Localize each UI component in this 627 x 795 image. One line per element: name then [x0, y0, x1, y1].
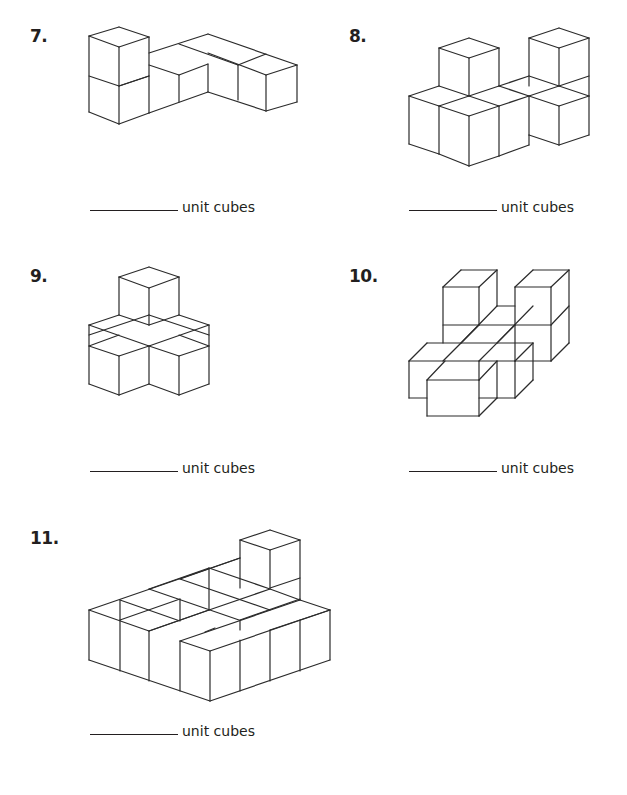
cube-edge	[179, 346, 209, 356]
cube-edge	[409, 144, 439, 154]
cube-edge	[469, 86, 499, 96]
cube-edge	[270, 578, 300, 588]
cube-edge	[551, 306, 569, 325]
cube-edge	[89, 27, 119, 36]
cube-edge	[439, 106, 469, 116]
cube-edge	[119, 346, 149, 356]
cube-edge	[149, 315, 209, 335]
cube-edge	[149, 34, 208, 53]
cube-edge	[559, 38, 589, 48]
cube-edge	[119, 27, 149, 37]
cube-edge	[89, 346, 119, 356]
cube-edge	[266, 65, 297, 75]
cube-figure-11	[89, 530, 330, 701]
cube-edge	[499, 96, 529, 106]
cube-edge	[119, 267, 149, 277]
cube-edge	[443, 270, 461, 287]
cube-edge	[469, 156, 499, 166]
cube-edge	[238, 54, 266, 65]
cube-edge	[469, 106, 499, 116]
cube-edge	[409, 86, 439, 96]
cube-edge	[529, 28, 559, 38]
unit-cubes-label: unit cubes	[501, 460, 574, 476]
cube-figure-7	[89, 27, 297, 124]
cube-edge	[119, 384, 149, 395]
cube-edge	[439, 154, 469, 166]
answer-blank-11[interactable]	[90, 734, 178, 735]
cube-edge	[529, 38, 559, 48]
cube-edge	[120, 599, 180, 620]
cube-edge	[119, 76, 149, 86]
cube-edge	[469, 48, 499, 58]
cube-edge	[149, 65, 179, 75]
answer-blank-9[interactable]	[90, 471, 178, 472]
cube-edge	[515, 380, 533, 398]
cube-edge	[89, 76, 119, 86]
cube-edge	[119, 277, 149, 288]
cube-edge	[240, 540, 270, 550]
answer-row-11: unit cubes	[90, 723, 255, 739]
cube-edge	[439, 96, 469, 106]
cube-edge	[270, 530, 300, 540]
cube-edge	[439, 86, 469, 96]
cube-edge	[551, 270, 569, 287]
cube-edge	[240, 530, 270, 540]
cube-edge	[149, 384, 179, 395]
cube-edge	[499, 86, 529, 96]
cube-edge	[179, 64, 208, 75]
unit-cubes-label: unit cubes	[182, 460, 255, 476]
answer-row-9: unit cubes	[90, 460, 255, 476]
unit-cubes-label: unit cubes	[182, 199, 255, 215]
cube-edge	[529, 76, 559, 86]
cube-edge	[120, 600, 180, 621]
cube-edge	[270, 540, 300, 550]
cube-edge	[499, 76, 529, 86]
cube-edge	[559, 135, 589, 145]
cube-edge	[270, 589, 300, 600]
cube-edge	[89, 36, 119, 47]
cube-edge	[89, 315, 119, 325]
cube-edge	[180, 579, 270, 610]
cube-edge	[89, 384, 119, 395]
cube-edge	[427, 361, 445, 380]
cube-edge	[559, 28, 589, 38]
cube-edge	[469, 96, 499, 106]
cube-edge	[149, 277, 179, 288]
cube-edge	[439, 48, 469, 58]
answer-row-7: unit cubes	[90, 199, 255, 215]
cube-figure-8	[409, 28, 589, 166]
cube-edge	[266, 102, 297, 111]
cube-edge	[529, 135, 559, 145]
cube-edge	[559, 76, 589, 86]
cube-edge	[479, 398, 497, 416]
cube-edge	[409, 96, 439, 106]
cube-edge	[529, 86, 559, 96]
cube-edge	[179, 44, 238, 65]
answer-blank-8[interactable]	[409, 210, 497, 211]
cube-edge	[409, 343, 427, 361]
answer-blank-10[interactable]	[409, 471, 497, 472]
cube-edge	[208, 92, 266, 111]
cube-edge	[559, 96, 589, 106]
answer-blank-7[interactable]	[90, 210, 178, 211]
cube-edge	[469, 38, 499, 48]
unit-cubes-label: unit cubes	[501, 199, 574, 215]
cube-edge	[179, 335, 209, 346]
cube-edge	[515, 270, 533, 287]
cube-edge	[559, 86, 589, 96]
cube-edge	[551, 343, 569, 361]
cube-edge	[479, 270, 497, 287]
cube-figures	[0, 0, 627, 795]
cube-figure-9	[89, 267, 209, 395]
cube-edge	[529, 96, 559, 106]
unit-cubes-label: unit cubes	[182, 723, 255, 739]
cube-edge	[89, 315, 149, 335]
cube-edge	[300, 600, 330, 610]
cube-figure-10	[409, 270, 569, 416]
cube-edge	[180, 641, 210, 651]
cube-edge	[179, 315, 209, 325]
cube-edge	[208, 53, 266, 75]
cube-edge	[149, 267, 179, 277]
answer-row-8: unit cubes	[409, 199, 574, 215]
cube-edge	[179, 384, 209, 395]
